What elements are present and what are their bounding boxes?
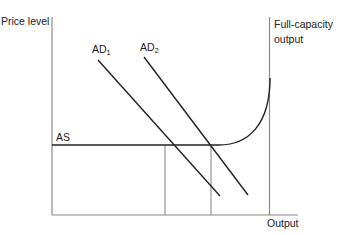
ad1-curve bbox=[98, 60, 220, 196]
as-label: AS bbox=[56, 131, 70, 144]
full-capacity-label-line1: Full-capacity bbox=[274, 18, 333, 31]
ad2-label: AD2 bbox=[140, 41, 159, 57]
ad2-curve bbox=[144, 57, 248, 195]
ad1-label-main: AD bbox=[92, 43, 107, 55]
as-curve bbox=[52, 78, 270, 145]
ad2-label-sub: 2 bbox=[155, 46, 159, 55]
y-axis-label: Price level bbox=[1, 15, 49, 28]
ad1-label-sub: 1 bbox=[107, 48, 111, 57]
x-axis-label: Output bbox=[267, 217, 299, 230]
ad1-label: AD1 bbox=[92, 43, 111, 59]
ad2-label-main: AD bbox=[140, 41, 155, 53]
full-capacity-label-line2: output bbox=[274, 33, 303, 46]
